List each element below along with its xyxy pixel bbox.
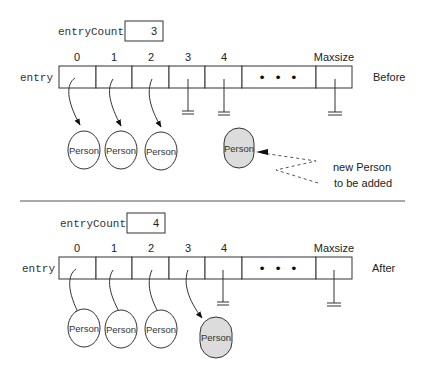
- index-label: 2: [148, 242, 154, 254]
- index-label: 4: [221, 242, 227, 254]
- new-person-label: Person: [224, 143, 254, 154]
- person-label: Person: [146, 324, 176, 335]
- before-panel: entryCount 3 0 1 2 3 4 Maxsize entry • •…: [20, 21, 405, 189]
- entry-array: • • •: [59, 66, 352, 88]
- person-label: Person: [106, 324, 136, 335]
- array-cell-maxsize: [316, 66, 352, 88]
- index-label: 1: [111, 242, 117, 254]
- array-label: entry: [22, 263, 55, 275]
- array-cell: [169, 257, 205, 279]
- index-label: 0: [74, 242, 80, 254]
- ellipsis-dots: • • •: [258, 261, 299, 276]
- state-label-before: Before: [373, 71, 405, 83]
- entry-count-box: [127, 213, 165, 233]
- array-cell: [59, 257, 96, 279]
- after-panel: entryCount 4 0 1 2 3 4 Maxsize entry • •…: [22, 213, 396, 358]
- array-cell: [96, 257, 132, 279]
- array-cell: [96, 66, 132, 88]
- annotation-text: to be added: [334, 177, 392, 189]
- new-person-label: Person: [201, 332, 231, 343]
- person-label: Person: [106, 145, 136, 156]
- entry-count-value: 3: [151, 25, 157, 37]
- maxsize-label: Maxsize: [314, 242, 354, 254]
- index-label: 3: [185, 242, 191, 254]
- entry-count-value: 4: [153, 217, 159, 229]
- ellipsis-dots: • • •: [258, 70, 299, 85]
- array-cell: [169, 66, 205, 88]
- array-insertion-diagram: entryCount 3 0 1 2 3 4 Maxsize entry • •…: [0, 0, 427, 368]
- person-label: Person: [146, 146, 176, 157]
- dashed-pointer: [262, 153, 318, 183]
- array-cell: [59, 66, 96, 88]
- entry-count-label: entryCount: [60, 218, 126, 230]
- index-label: 2: [148, 51, 154, 63]
- person-label: Person: [69, 323, 99, 334]
- index-label: 0: [74, 51, 80, 63]
- index-label: 3: [185, 51, 191, 63]
- arrowhead-icon: [256, 149, 268, 155]
- index-label: 4: [221, 51, 227, 63]
- entry-array: • • •: [59, 257, 352, 279]
- entry-count-box: [125, 21, 163, 41]
- array-label: entry: [20, 72, 53, 84]
- person-label: Person: [69, 145, 99, 156]
- state-label-after: After: [372, 262, 396, 274]
- index-label: 1: [111, 51, 117, 63]
- maxsize-label: Maxsize: [314, 51, 354, 63]
- annotation-text: new Person: [333, 161, 391, 173]
- entry-count-label: entryCount: [58, 26, 124, 38]
